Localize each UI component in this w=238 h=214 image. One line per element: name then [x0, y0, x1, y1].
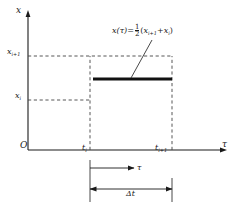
formula-leader-line [131, 40, 152, 78]
y-tick-base-x-i-plus-1: x [7, 47, 12, 56]
y-tick-label-x-i-plus-1: xi+1 [7, 48, 21, 56]
midpoint-formula: x(τ)= 1 2 (xi+1+xi) [112, 24, 173, 38]
x-tick-sub-t-i-plus-1: i+1 [158, 147, 167, 153]
figure-canvas: x τ O xi+1 xi ti ti+1 τ Δt x(τ)= 1 2 (xi… [0, 0, 238, 214]
delta-t-annotation-label: Δt [126, 190, 135, 198]
y-axis-label: x [16, 6, 21, 15]
formula-fraction-one-half: 1 2 [135, 24, 139, 38]
y-tick-sub-x-i: i [20, 95, 22, 101]
x-tick-sub-t-i: i [85, 147, 87, 153]
y-tick-sub-x-i-plus-1: i+1 [12, 51, 21, 57]
y-tick-base-x-i: x [15, 91, 20, 100]
y-tick-label-x-i: xi [15, 92, 21, 100]
formula-plus: + [157, 27, 164, 35]
formula-lhs: x(τ)= [112, 27, 134, 35]
formula-denominator: 2 [135, 30, 139, 38]
x-tick-label-t-i: ti [82, 144, 87, 152]
formula-term2-sub: i [168, 31, 170, 36]
tau-annotation-label: τ [137, 164, 141, 172]
formula-term1-sub: i+1 [148, 31, 157, 36]
x-axis-label: τ [222, 140, 227, 149]
x-tick-label-t-i-plus-1: ti+1 [155, 144, 167, 152]
formula-close-paren: ) [170, 27, 173, 35]
origin-label: O [20, 141, 27, 150]
y-axis-arrowhead [26, 10, 31, 17]
